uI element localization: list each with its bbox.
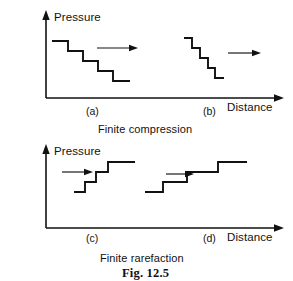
top-distance-axis-label: Distance: [227, 102, 273, 114]
wave-a-motion-arrow: [97, 45, 138, 51]
caption-finite-rarefaction: Finite rarefaction: [100, 253, 184, 264]
wave-b-motion-arrowhead: [252, 50, 261, 56]
figure-number-label: Fig. 12.5: [122, 267, 169, 280]
top-pressure-axis: [42, 10, 49, 98]
subpanel-label-c: (c): [86, 233, 98, 244]
wave-c-ascending-staircase: [74, 162, 135, 192]
top-distance-axis-arrowhead: [274, 94, 284, 101]
bottom-pressure-axis-arrowhead: [42, 144, 49, 154]
wave-d-ascending-staircase: [145, 162, 247, 192]
top-pressure-axis-label: Pressure: [54, 12, 101, 24]
wave-a-descending-staircase: [52, 41, 130, 81]
bottom-distance-axis-label: Distance: [227, 232, 273, 244]
top-panel-group: [42, 10, 284, 102]
wave-b-descending-staircase: [184, 38, 224, 78]
subpanel-label-b: (b): [203, 106, 216, 117]
wave-c-motion-arrowhead: [84, 169, 93, 175]
figure-12-5: Pressure Distance (a) (b) Finite compres…: [0, 0, 293, 281]
bottom-pressure-axis: [42, 144, 49, 228]
top-pressure-axis-arrowhead: [42, 10, 49, 20]
bottom-pressure-axis-label: Pressure: [54, 146, 101, 158]
subpanel-label-d: (d): [203, 233, 216, 244]
wave-a-motion-arrowhead: [129, 45, 138, 51]
wave-c-motion-arrow: [62, 169, 93, 175]
caption-finite-compression: Finite compression: [98, 124, 192, 135]
subpanel-label-a: (a): [86, 106, 99, 117]
wave-b-motion-arrow: [228, 50, 261, 56]
bottom-distance-axis-arrowhead: [274, 224, 284, 231]
